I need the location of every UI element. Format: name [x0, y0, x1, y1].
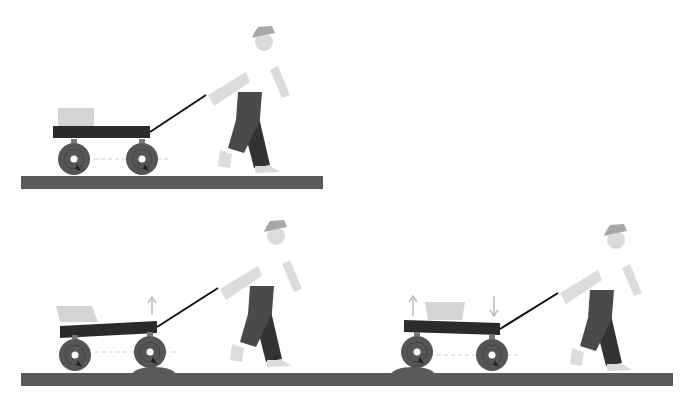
wheel: [126, 139, 158, 175]
wheel: [58, 139, 90, 175]
person-walking: [560, 224, 642, 371]
cargo-stack: [56, 306, 98, 322]
pants-hip: [590, 290, 614, 316]
ground-bump: [391, 367, 435, 383]
pants-hip: [250, 286, 274, 312]
foot-front: [218, 150, 232, 168]
cargo-stack: [58, 108, 94, 126]
wheel-hub: [489, 352, 496, 359]
wheel-hub: [139, 156, 146, 163]
wagon-handle: [500, 293, 558, 329]
foot-front: [570, 348, 584, 366]
arm-swinging: [282, 260, 302, 292]
foot-back: [255, 166, 280, 173]
axle-mount: [414, 332, 420, 336]
axle-mount: [139, 139, 145, 143]
wagon-handle: [157, 288, 218, 327]
wagon-bed: [53, 126, 150, 138]
wheel-hub: [72, 352, 79, 359]
arm-swinging: [270, 66, 290, 98]
wheel-hub: [71, 156, 78, 163]
pants-hip: [238, 92, 262, 118]
wheel-hub: [414, 349, 421, 356]
wheel: [401, 332, 433, 368]
wheel-hub: [147, 349, 154, 356]
axle-mount: [72, 335, 78, 339]
scene-level-ground: [21, 26, 323, 189]
ground-bump: [132, 367, 176, 383]
axle-mount: [147, 332, 153, 336]
ground-strip: [21, 373, 673, 386]
arm-swinging: [622, 264, 642, 296]
foot-back: [607, 364, 632, 371]
wagon-physics-diagram: [0, 0, 686, 401]
axle-mount: [489, 335, 495, 339]
foot-front: [230, 344, 244, 362]
wheel: [59, 335, 91, 371]
person-walking: [208, 26, 290, 173]
foot-back: [267, 360, 292, 367]
wagon-handle: [150, 95, 206, 132]
axle-mount: [71, 139, 77, 143]
wheel: [476, 335, 508, 371]
cargo-stack: [425, 302, 465, 320]
wheel: [134, 332, 166, 368]
person-walking: [220, 220, 302, 367]
scene-rear-wheel-on-bump: [391, 224, 642, 383]
ground-strip: [21, 176, 323, 189]
illustration-canvas: [0, 0, 686, 401]
